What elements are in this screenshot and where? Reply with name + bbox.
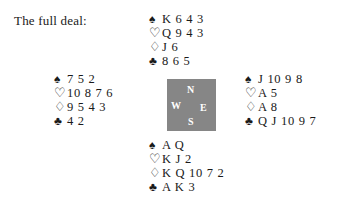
spade-icon: ♠	[54, 72, 67, 86]
hand-west: ♠ 7 5 2 ♡ 10 8 7 6 ♢ 9 5 4 3 ♣ 4 2	[54, 72, 113, 128]
compass-label-north: N	[187, 85, 194, 95]
spade-icon: ♠	[149, 12, 162, 26]
compass-label-south: S	[188, 117, 194, 127]
club-icon: ♣	[149, 180, 162, 194]
heart-icon: ♡	[149, 152, 162, 166]
hand-north-hearts: Q 9 4 3	[162, 26, 204, 40]
hand-east-clubs-line: ♣ Q J 10 9 7	[245, 114, 316, 128]
club-icon: ♣	[245, 114, 258, 128]
hand-south-diamonds: K Q 10 7 2	[162, 166, 225, 180]
spade-icon: ♠	[149, 138, 162, 152]
hand-south-spades-line: ♠ A Q	[149, 138, 225, 152]
hand-west-spades: 7 5 2	[67, 72, 96, 86]
spade-icon: ♠	[245, 72, 258, 86]
compass-box: N W E S	[167, 79, 216, 131]
hand-west-spades-line: ♠ 7 5 2	[54, 72, 113, 86]
hand-east-clubs: Q J 10 9 7	[258, 114, 316, 128]
diamond-icon: ♢	[149, 40, 162, 54]
diamond-icon: ♢	[149, 166, 162, 180]
hand-south-diamonds-line: ♢ K Q 10 7 2	[149, 166, 225, 180]
heart-icon: ♡	[245, 86, 258, 100]
hand-east-hearts-line: ♡ A 5	[245, 86, 316, 100]
compass-label-west: W	[171, 101, 181, 111]
compass-label-east: E	[200, 103, 207, 113]
hand-east-diamonds: A 8	[258, 100, 278, 114]
heart-icon: ♡	[149, 26, 162, 40]
hand-west-hearts: 10 8 7 6	[67, 86, 113, 100]
hand-west-clubs-line: ♣ 4 2	[54, 114, 113, 128]
club-icon: ♣	[54, 114, 67, 128]
diamond-icon: ♢	[245, 100, 258, 114]
hand-north-spades: K 6 4 3	[162, 12, 204, 26]
hand-west-diamonds: 9 5 4 3	[67, 100, 106, 114]
hand-east-spades-line: ♠ J 10 9 8	[245, 72, 316, 86]
hand-north-hearts-line: ♡ Q 9 4 3	[149, 26, 204, 40]
hand-east-spades: J 10 9 8	[258, 72, 303, 86]
hand-south-spades: A Q	[162, 138, 185, 152]
hand-east-diamonds-line: ♢ A 8	[245, 100, 316, 114]
hand-north-spades-line: ♠ K 6 4 3	[149, 12, 204, 26]
hand-north-clubs-line: ♣ 8 6 5	[149, 54, 204, 68]
hand-east-hearts: A 5	[258, 86, 278, 100]
club-icon: ♣	[149, 54, 162, 68]
hand-west-diamonds-line: ♢ 9 5 4 3	[54, 100, 113, 114]
page-title: The full deal:	[14, 13, 87, 28]
hand-west-clubs: 4 2	[67, 114, 85, 128]
hand-south: ♠ A Q ♡ K J 2 ♢ K Q 10 7 2 ♣ A K 3	[149, 138, 225, 194]
bridge-deal-diagram: The full deal: ♠ K 6 4 3 ♡ Q 9 4 3 ♢ J 6…	[0, 0, 340, 219]
hand-south-clubs-line: ♣ A K 3	[149, 180, 225, 194]
hand-south-hearts: K J 2	[162, 152, 192, 166]
heart-icon: ♡	[54, 86, 67, 100]
hand-north: ♠ K 6 4 3 ♡ Q 9 4 3 ♢ J 6 ♣ 8 6 5	[149, 12, 204, 68]
hand-north-clubs: 8 6 5	[162, 54, 191, 68]
hand-west-hearts-line: ♡ 10 8 7 6	[54, 86, 113, 100]
hand-north-diamonds: J 6	[162, 40, 178, 54]
hand-north-diamonds-line: ♢ J 6	[149, 40, 204, 54]
hand-south-hearts-line: ♡ K J 2	[149, 152, 225, 166]
hand-south-clubs: A K 3	[162, 180, 195, 194]
hand-east: ♠ J 10 9 8 ♡ A 5 ♢ A 8 ♣ Q J 10 9 7	[245, 72, 316, 128]
diamond-icon: ♢	[54, 100, 67, 114]
